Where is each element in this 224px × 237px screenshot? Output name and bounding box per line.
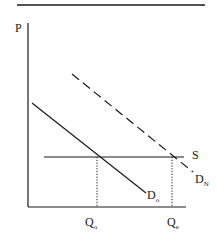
diagram-canvas: P S DN Do Qo Qe	[0, 0, 224, 237]
y-axis-label: P	[15, 21, 22, 35]
demand-curve-original	[32, 103, 146, 193]
supply-label: S	[192, 148, 199, 162]
x-tick-q-o: Qo	[85, 215, 98, 231]
demand-new-label: DN	[195, 172, 209, 188]
x-tick-q-e: Qe	[167, 215, 179, 231]
demand-original-label: Do	[147, 188, 160, 204]
